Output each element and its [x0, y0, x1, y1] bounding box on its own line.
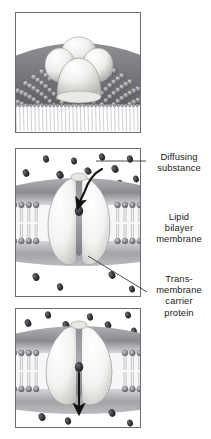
channel-mouth: [71, 173, 87, 181]
release-svg: [16, 309, 140, 427]
bound-particle: [75, 206, 83, 216]
release-artwork: [16, 309, 140, 427]
transmembrane-carrier-protein-label: Trans- membrane carrier protein: [148, 273, 210, 318]
released-particle: [75, 362, 83, 372]
lipid-bilayer-membrane-label: Lipid bilayer membrane: [148, 211, 210, 245]
diffusing-substance-label: Diffusing substance: [148, 151, 210, 173]
diffusion-figure: Diffusing substance Lipid bilayer membra…: [0, 0, 211, 439]
protein-channel: [76, 178, 82, 257]
surface-view-svg: [16, 13, 140, 132]
surface-view-artwork: [16, 13, 140, 132]
binding-artwork: [16, 149, 140, 296]
release-panel: [15, 308, 141, 428]
surface-view-panel: [15, 12, 141, 133]
channel-mouth: [71, 321, 87, 329]
binding-panel: [15, 148, 141, 297]
binding-svg: [16, 149, 140, 296]
